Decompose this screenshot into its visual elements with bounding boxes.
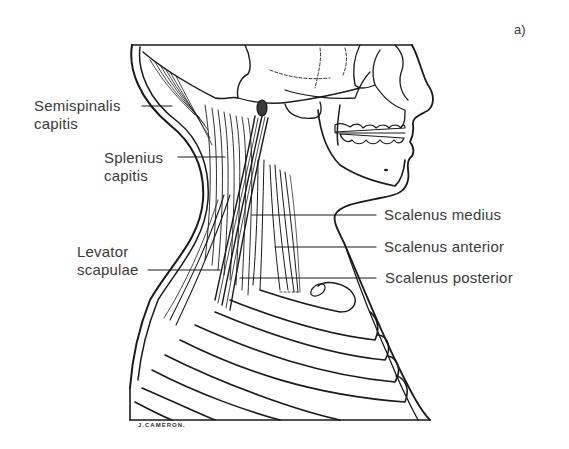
label-line-1: Splenius	[104, 149, 163, 167]
atlas-transverse-process	[257, 100, 267, 116]
scalenus-muscles	[253, 160, 300, 292]
label-scalenus-medius: Scalenus medius	[384, 206, 501, 224]
label-line-1: Semispinalis	[34, 97, 121, 115]
maxilla	[375, 85, 405, 128]
nasal-bone	[395, 45, 408, 100]
clavicle-cut-end	[309, 281, 328, 298]
lower-teeth	[340, 134, 404, 144]
skull-suture-2	[343, 48, 346, 75]
mastoid-process	[285, 102, 321, 118]
posterior-neck-outline	[130, 45, 203, 388]
mandible-ramus	[337, 105, 340, 145]
upper-teeth	[335, 124, 405, 132]
anatomical-illustration	[0, 0, 569, 449]
ribs	[135, 300, 407, 420]
clavicle	[260, 283, 355, 312]
orbit	[354, 45, 380, 88]
mandible	[318, 110, 405, 186]
skull-suture-1	[315, 48, 321, 88]
posterior-neck-inner-outline	[138, 47, 208, 380]
zygomatic-arch	[285, 72, 370, 98]
label-levator-scapulae: Levator scapulae	[77, 243, 139, 279]
label-splenius-capitis: Splenius capitis	[104, 149, 163, 185]
label-semispinalis-capitis: Semispinalis capitis	[34, 97, 121, 133]
panel-label: a)	[514, 22, 526, 37]
label-scalenus-posterior: Scalenus posterior	[385, 269, 513, 287]
label-line-1: Levator	[77, 243, 139, 261]
semispinalis-capitis-muscle	[150, 60, 212, 145]
skull-occipital	[143, 45, 250, 99]
label-line-2: scapulae	[77, 261, 139, 279]
label-scalenus-anterior: Scalenus anterior	[384, 238, 504, 256]
label-line-2: capitis	[104, 167, 163, 185]
label-line-2: capitis	[34, 115, 121, 133]
face-profile	[335, 45, 433, 420]
skull-base	[238, 88, 360, 103]
mental-foramen	[384, 169, 388, 172]
artist-signature: J.CAMERON.	[138, 422, 186, 428]
skull-suture-3	[270, 70, 330, 79]
